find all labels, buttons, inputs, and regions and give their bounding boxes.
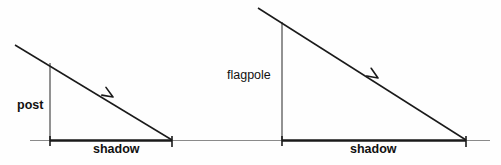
post-label: post <box>17 99 43 112</box>
flagpole-shadow-label: shadow <box>350 143 397 156</box>
flagpole-ray-arrowhead <box>366 68 380 81</box>
similar-triangles-diagram: post flagpole shadow shadow <box>0 0 501 165</box>
post-figure <box>15 45 172 147</box>
post-shadow-label: shadow <box>93 143 140 156</box>
flagpole-sun-ray <box>258 8 466 140</box>
post-sun-ray <box>15 45 172 140</box>
diagram-canvas <box>0 0 501 165</box>
flagpole-figure <box>258 8 466 147</box>
flagpole-label: flagpole <box>227 69 271 82</box>
